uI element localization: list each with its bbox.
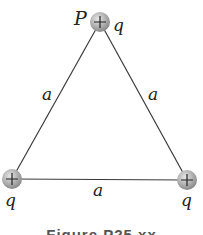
side-right: [100, 22, 187, 180]
charge-top: [90, 12, 110, 32]
side-bottom-label: a: [93, 180, 103, 200]
charge-top-label: q: [113, 15, 124, 35]
charge-bottom-right: [177, 170, 197, 190]
side-left: [12, 22, 100, 179]
charge-bottom-right-label: q: [181, 190, 192, 210]
charge-bottom-left: [2, 169, 22, 189]
charge-bottom-left-label: q: [5, 190, 16, 210]
side-left-label: a: [42, 84, 52, 104]
point-p-label: P: [73, 7, 88, 29]
figure-caption-clip: Figure P25.xx: [0, 226, 203, 235]
side-right-label: a: [148, 84, 158, 104]
triangle-diagram: P q a a a q q: [0, 0, 203, 235]
figure-caption: Figure P25.xx: [0, 226, 203, 235]
